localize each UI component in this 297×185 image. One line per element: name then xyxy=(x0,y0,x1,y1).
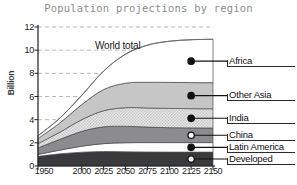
population-projections-chart: Population projections by region Billion… xyxy=(0,0,297,185)
chart-title: Population projections by region xyxy=(0,2,297,14)
legend-rule xyxy=(227,123,295,124)
y-tick-label: 10 xyxy=(18,45,34,55)
legend-tick-stub xyxy=(227,94,228,100)
x-tick-label: 2075 xyxy=(138,166,156,176)
legend-item-developed[interactable]: Developed xyxy=(229,153,273,165)
legend-tick-stub xyxy=(227,158,228,164)
legend-rule xyxy=(227,100,295,101)
x-tick-label: 2050 xyxy=(116,166,134,176)
legend-rule xyxy=(227,164,295,165)
y-tick-label: 8 xyxy=(18,68,34,78)
legend-item-india[interactable]: India xyxy=(229,112,249,124)
stacked-bands xyxy=(38,39,213,166)
legend-rule xyxy=(227,140,295,141)
legend-rule xyxy=(227,152,295,153)
x-tick-label: 2000 xyxy=(73,166,91,176)
legend-item-china[interactable]: China xyxy=(229,129,253,141)
x-tick-label: 1950 xyxy=(35,166,53,176)
legend-tick-stub xyxy=(227,117,228,123)
legend-rule xyxy=(227,66,295,67)
legend-item-other-asia[interactable]: Other Asia xyxy=(229,89,271,101)
y-tick-label: 4 xyxy=(18,115,34,125)
x-tick-label: 2025 xyxy=(94,166,112,176)
legend-tick-stub xyxy=(227,60,228,66)
world-total-annotation: World total xyxy=(95,40,140,51)
y-tick-label: 12 xyxy=(18,22,34,32)
y-tick-label: 6 xyxy=(18,92,34,102)
legend-item-latin-america[interactable]: Latin America xyxy=(229,141,284,153)
x-axis-ticks: 19502000202520502075210021252150 xyxy=(0,166,297,180)
y-tick-label: 2 xyxy=(18,138,34,148)
x-tick-label: 2100 xyxy=(160,166,178,176)
legend-tick-stub xyxy=(227,134,228,140)
y-axis-ticks: 024681012 xyxy=(14,0,34,185)
x-tick-label: 2150 xyxy=(204,166,222,176)
legend-item-africa[interactable]: Africa xyxy=(229,55,252,67)
legend-tick-stub xyxy=(227,146,228,152)
x-tick-label: 2125 xyxy=(182,166,200,176)
